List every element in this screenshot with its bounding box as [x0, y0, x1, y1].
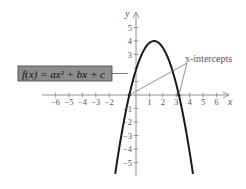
axes: [42, 12, 229, 176]
y-tick-label: −3: [123, 131, 132, 141]
x-tick-label: 4: [187, 97, 192, 107]
x-axis-label: x: [227, 96, 233, 107]
x-tick-label: −2: [105, 97, 114, 107]
y-tick-label: −4: [123, 144, 133, 154]
x-intercepts-label: x-intercepts: [185, 53, 232, 64]
x-tick-label: 2: [161, 97, 165, 107]
y-tick-label: −5: [123, 158, 132, 168]
y-tick-label: 4: [128, 36, 133, 46]
x-intercepts-annotation: x-intercepts: [129, 53, 232, 95]
x-tick-label: 3: [174, 97, 178, 107]
x-tick-label: 6: [214, 97, 218, 107]
function-box: f(x) = ax² + bx + c: [18, 66, 128, 81]
x-tick-label: 1: [147, 97, 151, 107]
x-tick-label: −3: [91, 97, 100, 107]
y-tick-label: 3: [128, 50, 132, 60]
y-tick-label: 5: [128, 23, 132, 33]
x-tick-label: −4: [78, 97, 88, 107]
x-tick-label: −5: [64, 97, 73, 107]
y-axis-label: y: [124, 8, 130, 19]
parabola-graph: −6−5−4−3−2123456 543−1−2−3−4−5 x y x-int…: [0, 0, 246, 189]
x-tick-label: −6: [51, 97, 60, 107]
leader-line: [179, 63, 187, 95]
x-tick-label: 5: [201, 97, 205, 107]
function-label: f(x) = ax² + bx + c: [22, 68, 105, 81]
